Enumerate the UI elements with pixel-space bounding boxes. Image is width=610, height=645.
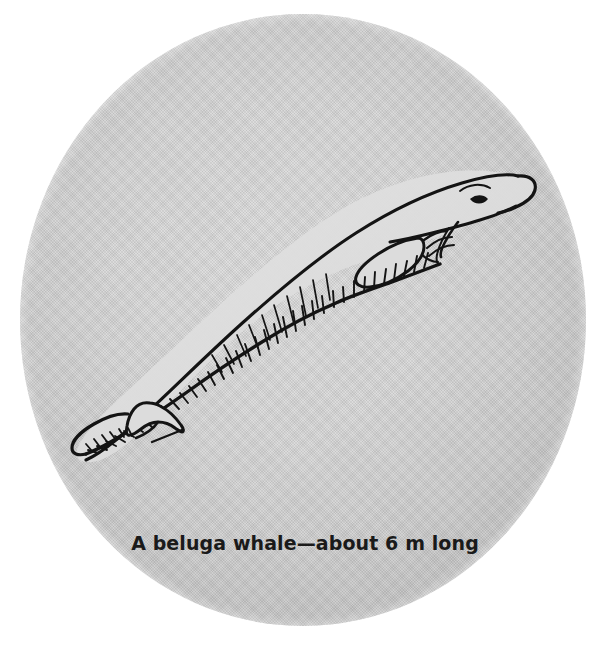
peduncle-ridge: [152, 430, 182, 442]
figure-caption: A beluga whale—about 6 m long: [0, 532, 610, 554]
beluga-whale-figure: A beluga whale—about 6 m long: [0, 0, 610, 645]
eye: [471, 196, 487, 203]
tail-flukes: [126, 403, 183, 435]
